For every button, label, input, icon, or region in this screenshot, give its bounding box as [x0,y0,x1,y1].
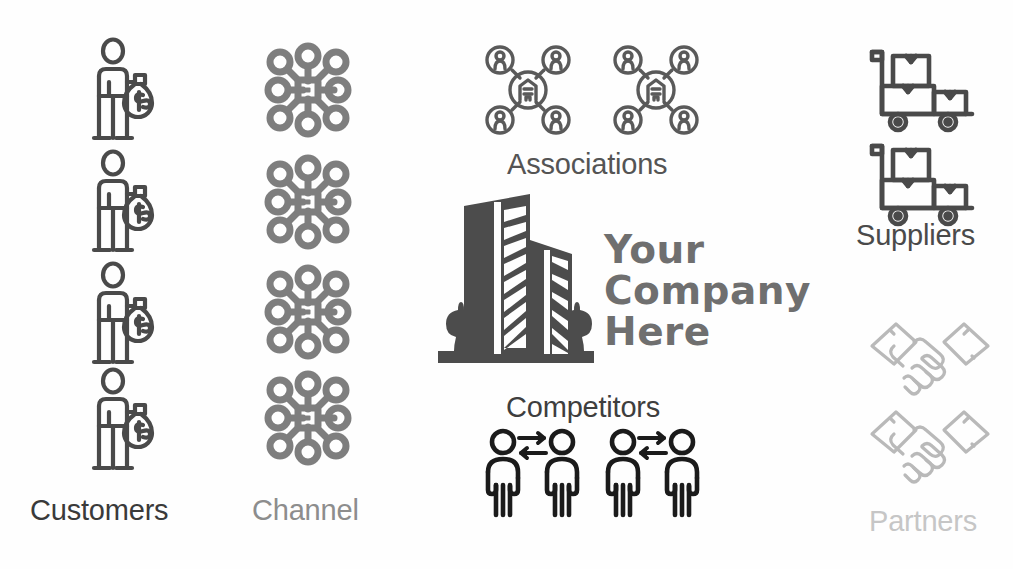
competitor-icon-2[interactable] [606,428,706,520]
competitors-label: Competitors [506,391,660,424]
customer-icon-1[interactable] [88,38,166,144]
customer-icon-2[interactable] [88,150,166,256]
competitor-icon-1[interactable] [486,428,586,520]
channel-icon-3[interactable] [262,262,354,362]
partner-icon-1[interactable] [868,312,992,404]
association-icon-2[interactable] [612,42,700,138]
channel-icon-4[interactable] [262,368,354,468]
channel-icon-1[interactable] [262,40,354,140]
customer-icon-4[interactable] [88,368,166,474]
company-wordmark: Your Company Here [604,229,811,352]
channel-icon-2[interactable] [262,152,354,252]
office-building-icon [432,192,600,370]
associations-label: Associations [507,148,667,181]
suppliers-label: Suppliers [856,219,975,252]
partner-icon-2[interactable] [868,400,992,492]
diagram-canvas: Associations [0,0,1013,569]
association-icon-1[interactable] [484,42,572,138]
supplier-icon-2[interactable] [866,142,976,226]
supplier-icon-1[interactable] [866,48,976,132]
channel-label: Channel [252,494,359,527]
partners-label: Partners [869,505,977,538]
customers-label: Customers [30,494,168,527]
customer-icon-3[interactable] [88,262,166,368]
